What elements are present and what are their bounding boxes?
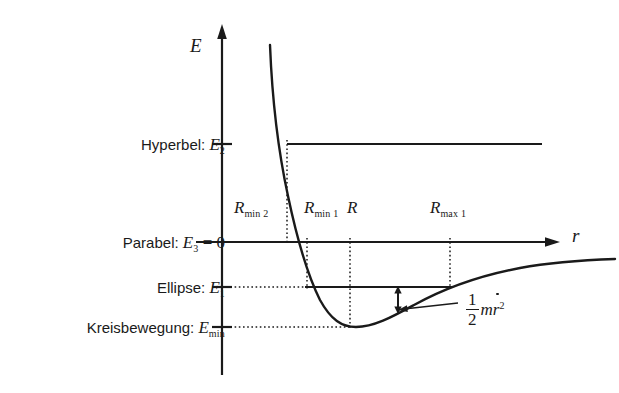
level-label-parabel-text: Parabel: (123, 234, 179, 251)
y-axis-label: E (190, 36, 202, 55)
radius-label-r-max-1-symbol: R (430, 198, 440, 217)
radius-label-r-min-1-subscript: min 1 (314, 208, 338, 219)
level-label-kreisbewegung-subscript: min (209, 328, 225, 339)
radius-label-r-min-2-subscript: min 2 (244, 208, 268, 219)
level-label-kreisbewegung-text: Kreisbewegung: (87, 319, 195, 336)
level-label-ellipse: Ellipse: E1 (157, 279, 225, 296)
x-axis (196, 237, 560, 247)
level-label-hyperbel-subscript: 2 (220, 145, 225, 156)
level-label-parabel-symbol: E (183, 233, 193, 252)
formula-fraction: 1 2 (466, 291, 479, 328)
level-label-ellipse-text: Ellipse: (157, 279, 205, 296)
radius-label-r-max-1-subscript: max 1 (440, 208, 466, 219)
radius-guide-lines (287, 140, 450, 329)
radius-label-r-min-2: Rmin 2 (234, 198, 268, 218)
formula-exponent: 2 (499, 300, 504, 311)
formula-leader-line (398, 303, 458, 312)
level-label-hyperbel: Hyperbel: E2 (141, 136, 225, 153)
level-label-kreisbewegung-symbol: E (198, 318, 208, 337)
radius-label-r-min-1-symbol: R (304, 198, 314, 217)
radius-label-r-symbol: R (347, 198, 357, 217)
radius-label-r-min-1: Rmin 1 (304, 198, 338, 218)
formula-numerator: 1 (466, 291, 479, 309)
level-label-hyperbel-text: Hyperbel: (141, 136, 205, 153)
level-label-ellipse-symbol: E (209, 278, 219, 297)
formula-denominator: 2 (466, 310, 479, 328)
kinetic-energy-formula: 1 2 mr2 (466, 291, 504, 328)
potential-energy-curve (270, 45, 615, 327)
radius-label-r-max-1: Rmax 1 (430, 198, 466, 218)
formula-time-derivative-dot (496, 293, 499, 296)
formula-body: mr2 (481, 300, 505, 320)
level-label-ellipse-subscript: 1 (220, 288, 225, 299)
radius-label-r-min-2-symbol: R (234, 198, 244, 217)
radius-label-r: R (347, 198, 357, 218)
level-label-parabel-suffix: = 0 (198, 233, 225, 252)
level-label-parabel-subscript: 3 (193, 243, 198, 254)
x-axis-label: r (572, 226, 579, 245)
formula-mass-symbol: m (481, 300, 493, 319)
figure-canvas: Hyperbel: E2 Parabel: E3 = 0 Ellipse: E1… (0, 0, 619, 393)
level-label-kreisbewegung: Kreisbewegung: Emin (87, 319, 225, 336)
level-label-parabel: Parabel: E3 = 0 (123, 234, 225, 251)
level-label-hyperbel-symbol: E (209, 135, 219, 154)
